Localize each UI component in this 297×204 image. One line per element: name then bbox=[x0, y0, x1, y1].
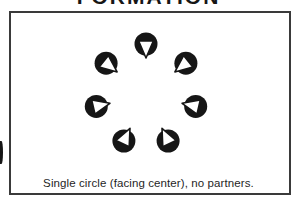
page-title: FORMATION bbox=[0, 0, 297, 7]
book-page: FORMATION Single circle (facing center),… bbox=[0, 0, 297, 204]
formation-frame bbox=[9, 11, 291, 195]
caption: Single circle (facing center), no partne… bbox=[0, 176, 297, 190]
scan-artifact bbox=[0, 141, 3, 164]
